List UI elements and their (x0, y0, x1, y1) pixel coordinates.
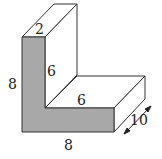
l-prism-diagram: 2 6 6 8 8 10 (0, 0, 162, 159)
label-inner-vertical: 6 (47, 63, 56, 79)
label-left-height: 8 (8, 76, 17, 92)
label-depth: 10 (130, 112, 148, 128)
label-bottom-width: 8 (64, 137, 73, 153)
label-inner-horizontal: 6 (77, 92, 86, 108)
label-top-width: 2 (35, 21, 44, 37)
